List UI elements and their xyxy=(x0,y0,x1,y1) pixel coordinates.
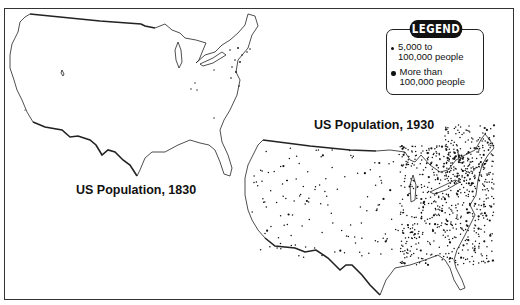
legend-item-large: More than 100,000 people xyxy=(391,67,465,86)
map-1930-city-dots xyxy=(251,124,495,266)
legend-heading: LEGEND xyxy=(410,20,463,38)
legend-label: More than 100,000 people xyxy=(400,67,466,86)
small-dot-icon xyxy=(391,47,394,50)
legend: LEGEND 5,000 to 100,000 people More than… xyxy=(386,29,484,95)
map-1830-city-dots xyxy=(24,47,250,119)
map-1830-title: US Population, 1830 xyxy=(76,183,196,197)
large-dot-icon xyxy=(391,71,396,76)
map-1930-title: US Population, 1930 xyxy=(314,118,434,132)
legend-item-small: 5,000 to 100,000 people xyxy=(391,42,464,61)
map-1830-outline xyxy=(10,14,258,176)
legend-label: 5,000 to 100,000 people xyxy=(398,42,464,61)
